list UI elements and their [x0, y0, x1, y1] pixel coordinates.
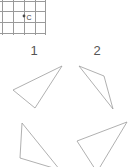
triangle-group	[13, 66, 127, 167]
triangle-1	[13, 66, 62, 108]
point-c-marker	[23, 15, 26, 18]
grid-vertical-lines	[2, 0, 45, 35]
shape-labels: 1 2	[30, 43, 100, 58]
geometry-figure: C 1 2	[0, 0, 131, 167]
reference-grid: C	[0, 0, 45, 35]
shape-label-2: 2	[93, 43, 100, 58]
grid-horizontal-lines	[0, 1, 45, 33]
point-c-label: C	[27, 14, 32, 21]
shape-label-1: 1	[30, 43, 37, 58]
triangle-3	[20, 123, 60, 167]
triangle-4	[77, 122, 127, 167]
triangle-2	[79, 66, 113, 109]
figure-canvas: C 1 2	[0, 0, 131, 167]
